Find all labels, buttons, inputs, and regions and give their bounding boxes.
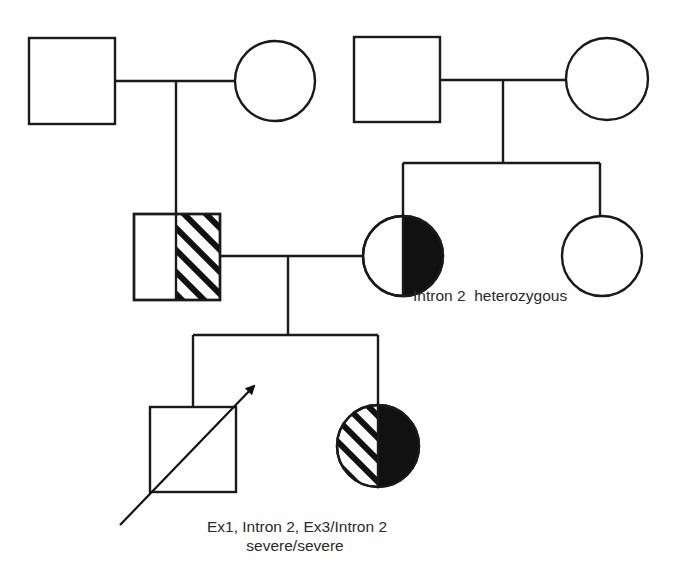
generation-3: Ex1, Intron 2, Ex3/Intron 2 severe/sever… bbox=[120, 335, 419, 554]
individual-I-2-female bbox=[235, 41, 315, 121]
generation-1-left-couple bbox=[29, 38, 315, 214]
individual-I-4-female bbox=[566, 38, 648, 120]
individual-II-1-male-hatched bbox=[134, 168, 240, 358]
proband-genotype-label: Ex1, Intron 2, Ex3/Intron 2 bbox=[207, 518, 387, 535]
individual-II-2-female-half-solid bbox=[363, 216, 443, 296]
proband-phenotype-label: severe/severe bbox=[246, 537, 343, 554]
pedigree-diagram: Intron 2 heterozygous Ex1, Intron 2, Ex3… bbox=[0, 0, 680, 580]
individual-II-3-female bbox=[562, 216, 642, 296]
generation-1-right-couple bbox=[354, 37, 648, 215]
generation-2: Intron 2 heterozygous bbox=[134, 168, 642, 358]
mother-genotype-label: Intron 2 heterozygous bbox=[413, 287, 567, 304]
individual-I-3-male bbox=[354, 37, 440, 122]
individual-I-1-male bbox=[29, 38, 115, 124]
